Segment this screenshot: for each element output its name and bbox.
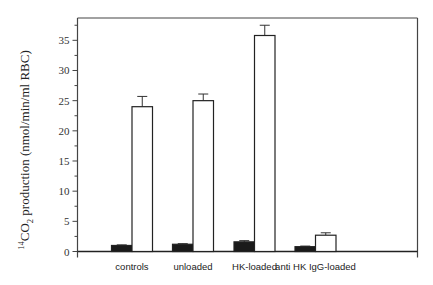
x-axis-labels: controlsunloadedHK-loadedanti HK IgG-loa…: [115, 261, 356, 272]
x-tick-label: unloaded: [173, 261, 212, 272]
bar-black-1: [173, 244, 194, 252]
bars: [112, 25, 337, 251]
y-axis-label: 14CO2 production (nmol/min/ml RBC): [16, 50, 35, 249]
y-tick-label: 25: [59, 95, 71, 107]
y-tick-label: 5: [64, 215, 70, 227]
bar-white-2: [255, 25, 276, 251]
y-tick-label: 20: [59, 125, 71, 137]
y-tick-label: 10: [59, 185, 71, 197]
x-tick-label: anti HK IgG-loaded: [275, 261, 356, 272]
plot-frame: [78, 18, 418, 258]
bar-black-3: [295, 246, 316, 251]
x-tick-label: HK-loaded: [232, 261, 277, 272]
y-tick-label: 30: [59, 64, 71, 76]
y-tick-label: 15: [59, 155, 71, 167]
bar-white-1: [193, 94, 214, 251]
x-tick-label: controls: [115, 261, 149, 272]
bar-black-0: [112, 245, 133, 252]
bar-black-2: [234, 241, 255, 252]
bar-white-0: [132, 96, 153, 251]
y-tick-label: 35: [59, 34, 71, 46]
y-axis-ticks: 05101520253035: [59, 25, 78, 257]
y-tick-label: 0: [64, 246, 70, 258]
bar-chart: 05101520253035 controlsunloadedHK-loaded…: [0, 0, 433, 285]
bar-white-3: [316, 233, 337, 252]
